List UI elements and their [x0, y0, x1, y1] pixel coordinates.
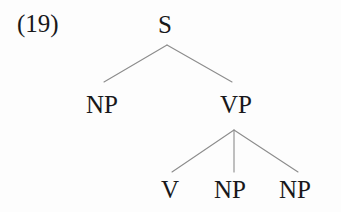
edge-vp-to-v	[172, 130, 234, 172]
tree-node-np-object-1: NP	[214, 177, 246, 202]
edge-vp-to-np-obj2	[234, 130, 298, 172]
edge-s-to-vp	[167, 45, 232, 82]
figure-canvas: (19) S NP VP V NP NP	[0, 0, 341, 212]
tree-node-v: V	[161, 177, 179, 202]
tree-node-np-object-2: NP	[279, 177, 311, 202]
tree-node-s: S	[158, 12, 172, 37]
tree-node-np-subject: NP	[86, 92, 118, 117]
example-number-label: (19)	[17, 11, 59, 36]
tree-node-vp: VP	[220, 92, 252, 117]
edge-s-to-np-subject	[104, 45, 167, 82]
